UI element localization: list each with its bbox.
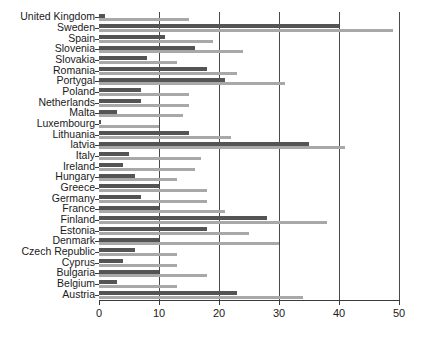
bar-series-2 [99,200,207,203]
category-tick [95,263,99,264]
x-axis-line [99,300,400,301]
category-tick [95,273,99,274]
bar-series-2 [99,146,345,149]
category-tick [95,145,99,146]
x-axis-tick-label: 50 [379,307,419,320]
bar-series-2 [99,29,393,32]
bar-series-1 [99,78,225,82]
category-tick [95,124,99,125]
bar-series-2 [99,274,207,277]
x-axis-tick-label: 10 [139,307,179,320]
bar-series-1 [99,142,309,146]
bar-series-1 [99,88,141,92]
category-tick [95,231,99,232]
category-tick [95,135,99,136]
bar-series-1 [99,248,135,252]
bar-series-2 [99,61,177,64]
bar-series-2 [99,221,327,224]
bar-series-1 [99,291,237,295]
bar-chart: United KingdomSwedenSpainSloveniaSlovaki… [0,0,421,340]
x-axis-tick-label: 0 [79,307,119,320]
bar-series-1 [99,35,165,39]
bar-series-1 [99,270,159,274]
x-axis-tick [219,300,220,305]
x-axis-tick [339,300,340,305]
category-tick [95,177,99,178]
category-tick [95,252,99,253]
bar-series-1 [99,110,117,114]
bar-series-2 [99,242,279,245]
x-axis-tick [279,300,280,305]
bar-series-2 [99,157,201,160]
x-axis-tick-label: 30 [259,307,299,320]
category-tick [95,199,99,200]
bar-series-2 [99,253,177,256]
bar-series-2 [99,93,189,96]
x-axis-tick [399,300,400,305]
gridline [339,12,340,300]
category-tick [95,39,99,40]
category-label: Austria [62,289,95,300]
category-tick [95,28,99,29]
bar-series-1 [99,67,207,71]
bar-series-1 [99,184,159,188]
category-tick [95,113,99,114]
bar-series-2 [99,232,249,235]
category-tick [95,241,99,242]
bar-series-2 [99,82,285,85]
bar-series-1 [99,99,141,103]
bar-series-2 [99,296,303,299]
bar-series-2 [99,168,195,171]
category-tick [95,295,99,296]
category-tick [95,188,99,189]
category-tick [95,81,99,82]
bar-series-1 [99,227,207,231]
x-axis-tick [159,300,160,305]
bar-series-2 [99,136,231,139]
bar-series-2 [99,18,189,21]
bar-series-2 [99,264,177,267]
bar-series-2 [99,104,189,107]
category-tick [95,17,99,18]
bar-series-1 [99,14,105,18]
bar-series-1 [99,195,141,199]
category-tick [95,220,99,221]
bar-series-2 [99,178,177,181]
category-tick [95,49,99,50]
bar-series-1 [99,56,147,60]
bar-series-1 [99,120,101,124]
bar-series-1 [99,238,159,242]
bar-series-1 [99,131,189,135]
bar-series-1 [99,174,135,178]
category-tick [95,103,99,104]
category-tick [95,209,99,210]
bar-series-1 [99,280,117,284]
bar-series-1 [99,152,129,156]
gridline [399,12,400,300]
bar-series-1 [99,216,267,220]
category-tick [95,284,99,285]
bar-series-1 [99,206,159,210]
bar-series-1 [99,259,123,263]
bar-series-2 [99,72,237,75]
bar-series-2 [99,210,225,213]
bar-series-2 [99,40,213,43]
bar-series-2 [99,114,183,117]
gridline [219,12,220,300]
category-tick [95,156,99,157]
category-tick [95,60,99,61]
category-tick [95,92,99,93]
bar-series-2 [99,125,159,128]
bar-series-2 [99,50,243,53]
bar-series-2 [99,189,207,192]
x-axis-tick-label: 20 [199,307,239,320]
bar-series-1 [99,24,339,28]
x-axis-tick [99,300,100,305]
category-tick [95,71,99,72]
x-axis-tick-label: 40 [319,307,359,320]
bar-series-1 [99,46,195,50]
category-tick [95,167,99,168]
bar-series-2 [99,285,177,288]
bar-series-1 [99,163,123,167]
gridline [279,12,280,300]
